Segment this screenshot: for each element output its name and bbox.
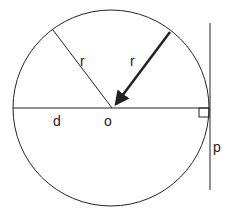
- label-tangent: p: [213, 139, 221, 155]
- label-radius-right: r: [130, 53, 135, 69]
- label-diameter: d: [53, 113, 61, 129]
- radius-thin: [53, 30, 112, 108]
- circle-diagram: r r d o p: [0, 0, 234, 220]
- right-angle-marker: [199, 108, 209, 117]
- label-center: o: [104, 113, 112, 129]
- radius-arrow: [116, 32, 170, 104]
- label-radius-left: r: [80, 53, 85, 69]
